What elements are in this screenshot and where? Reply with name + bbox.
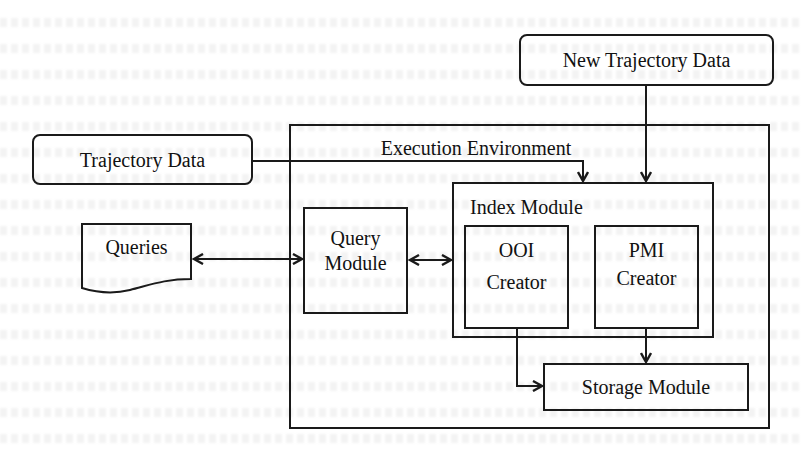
- query-module-label-line1: Query: [304, 226, 407, 250]
- edge-trajectory-to-index: [252, 161, 583, 181]
- storage-module-label: Storage Module: [544, 375, 748, 399]
- ooi-creator-label-line2: Creator: [465, 270, 568, 294]
- ooi-creator-label-line1: OOI: [465, 238, 568, 262]
- trajectory-data-label: Trajectory Data: [33, 148, 252, 172]
- index-module-label: Index Module: [470, 195, 600, 219]
- pmi-creator-label-line2: Creator: [595, 266, 698, 290]
- query-module-label-line2: Module: [304, 251, 407, 275]
- pmi-creator-label-line1: PMI: [595, 238, 698, 262]
- new-trajectory-data-label: New Trajectory Data: [520, 48, 773, 72]
- queries-label: Queries: [82, 235, 191, 259]
- execution-environment-label: Execution Environment: [370, 136, 582, 160]
